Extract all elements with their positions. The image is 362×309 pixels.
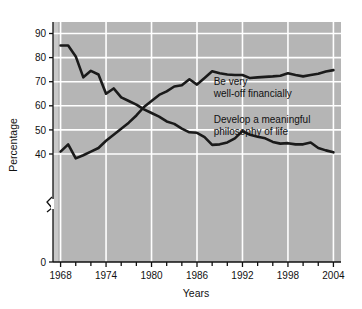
- y-axis-title: Percentage: [7, 118, 19, 172]
- series-label-2-line2: philosophy of life: [214, 126, 289, 137]
- x-tick-label: 1998: [277, 270, 300, 281]
- chart-figure: 0405060708090196819741980198619921998200…: [0, 0, 362, 309]
- x-tick-label: 1968: [49, 270, 72, 281]
- series-label-1-line1: Be very: [214, 76, 248, 87]
- series-label-1-line2: well-off financially: [213, 88, 292, 99]
- x-axis-title: Years: [183, 287, 209, 299]
- y-tick-label: 60: [35, 100, 47, 111]
- line-chart-svg: 0405060708090196819741980198619921998200…: [0, 0, 362, 309]
- y-tick-label: 80: [35, 52, 47, 63]
- y-tick-label: 50: [35, 125, 47, 136]
- y-tick-label: 70: [35, 76, 47, 87]
- x-tick-label: 1986: [186, 270, 209, 281]
- x-tick-label: 1974: [95, 270, 118, 281]
- series-label-2-line1: Develop a meaningful: [214, 114, 311, 125]
- x-tick-label: 1980: [140, 270, 163, 281]
- y-tick-label: 90: [35, 28, 47, 39]
- y-tick-label: 40: [35, 149, 47, 160]
- y-tick-label: 0: [40, 257, 46, 268]
- x-tick-label: 1992: [231, 270, 254, 281]
- x-tick-label: 2004: [322, 270, 345, 281]
